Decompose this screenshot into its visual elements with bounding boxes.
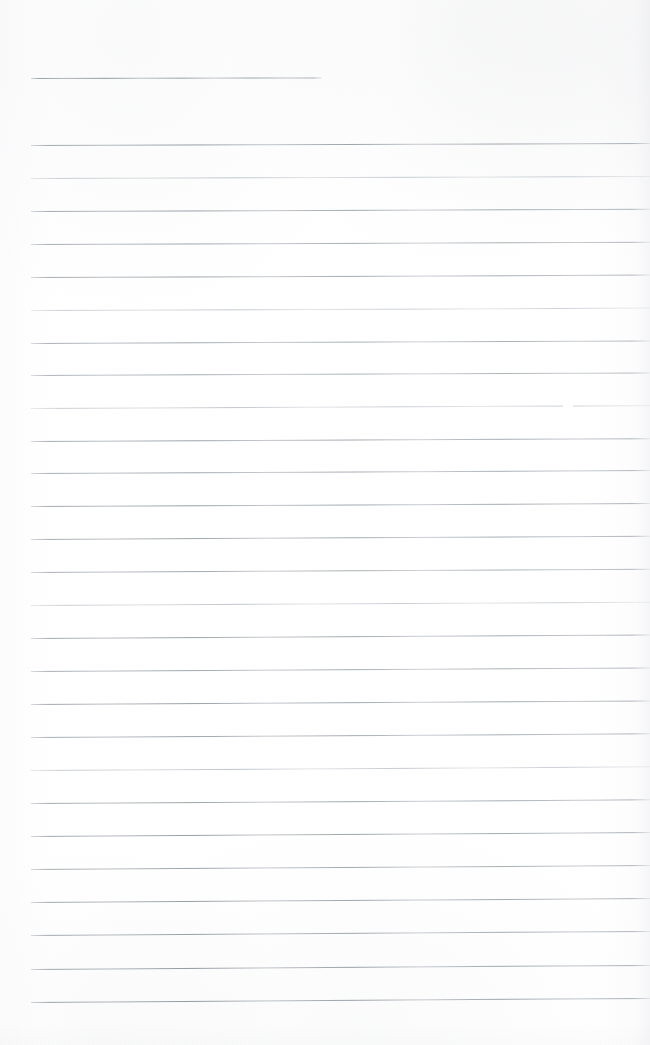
ruled-line xyxy=(31,998,650,1003)
ruled-line xyxy=(31,242,650,245)
ruled-line xyxy=(31,965,650,970)
ruled-line xyxy=(31,602,650,606)
ruled-line xyxy=(31,799,650,804)
ruled-line xyxy=(31,438,650,442)
ruled-line xyxy=(31,340,650,344)
ruled-line xyxy=(31,931,650,936)
ruled-line xyxy=(31,503,650,507)
ruled-line xyxy=(31,668,650,672)
ruled-line xyxy=(31,766,650,771)
ruled-line xyxy=(31,733,650,738)
ruled-line xyxy=(31,898,650,903)
ruled-line xyxy=(31,77,322,79)
ruled-line xyxy=(31,143,650,146)
scan-dropout xyxy=(69,371,76,374)
scanned-notebook-page: Blank Ruled Notebook Page xyxy=(0,0,650,1045)
ruled-line xyxy=(31,372,650,376)
ruled-line xyxy=(31,832,650,837)
ruled-lines-layer xyxy=(0,0,650,1045)
ruled-line xyxy=(31,308,650,311)
ruled-line xyxy=(31,405,650,409)
ruled-line xyxy=(31,209,650,212)
ruled-line xyxy=(31,635,650,639)
ruled-line xyxy=(31,176,650,179)
ruled-line xyxy=(31,470,650,474)
ruled-line xyxy=(31,701,650,705)
ruled-line xyxy=(31,865,650,870)
ruled-line xyxy=(31,275,650,278)
ruled-line xyxy=(31,536,650,540)
ruled-line xyxy=(31,569,650,573)
